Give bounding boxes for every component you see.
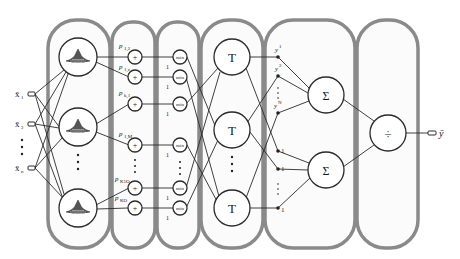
svg-text:+: + [133, 53, 138, 62]
svg-text:min: min [176, 102, 184, 107]
input-port [28, 166, 35, 170]
input-port [28, 92, 35, 96]
svg-text:÷: ÷ [384, 126, 391, 141]
sum-node-2: Σ [308, 152, 344, 188]
svg-text:T: T [228, 50, 236, 65]
svg-text:N: N [278, 100, 282, 105]
svg-text:min: min [176, 55, 184, 60]
svg-text:p: p [118, 89, 123, 97]
input-nodes: x̄ 1 x̄ 2 x̄ n [15, 89, 35, 174]
gaussian-nodes [59, 38, 97, 227]
svg-text:Σ: Σ [323, 89, 330, 103]
sum-node-1: Σ [308, 77, 344, 113]
input-port [28, 122, 35, 126]
t-node-1: T [214, 39, 250, 75]
gaussian-node-1 [59, 38, 97, 76]
svg-text:+: + [133, 204, 138, 213]
t-node-2: T [214, 112, 250, 148]
svg-text:1: 1 [166, 64, 169, 70]
fuzzy-neural-network-diagram: x̄ 1 x̄ 2 x̄ n [0, 0, 460, 259]
svg-text:+: + [133, 141, 138, 150]
output-port [428, 131, 436, 135]
svg-text:1: 1 [166, 111, 169, 117]
svg-text:T: T [228, 201, 236, 216]
gaussian-node-3 [59, 189, 97, 227]
svg-text:x̄: x̄ [15, 119, 20, 129]
input-x1: x̄ 1 [15, 89, 35, 100]
svg-text:min: min [176, 75, 184, 80]
svg-text:min: min [176, 186, 184, 191]
t-nodes: T T T [214, 39, 250, 226]
svg-text:1: 1 [21, 95, 24, 100]
svg-text:ȳ: ȳ [438, 128, 444, 139]
svg-text:+: + [133, 73, 138, 82]
svg-text:p: p [114, 194, 119, 202]
svg-text:Σ: Σ [323, 164, 330, 178]
svg-text:p: p [118, 63, 123, 71]
svg-text:1: 1 [281, 165, 285, 173]
svg-text:KO: KO [120, 198, 128, 203]
division-node: ÷ [370, 115, 406, 151]
input-ellipsis [21, 139, 23, 155]
output-node: ȳ [428, 128, 444, 139]
input-x2: x̄ 2 [15, 119, 35, 130]
svg-text:p: p [114, 175, 119, 183]
svg-text:2: 2 [21, 125, 24, 130]
svg-text:p: p [118, 130, 123, 138]
svg-text:x̄: x̄ [15, 89, 20, 99]
svg-text:1: 1 [281, 206, 285, 214]
input-xn: x̄ n [15, 163, 35, 174]
svg-text:+: + [133, 100, 138, 109]
gaussian-node-2 [59, 108, 97, 146]
svg-text:K1O: K1O [120, 179, 130, 184]
svg-text:1: 1 [281, 147, 285, 155]
t-node-3: T [214, 190, 250, 226]
svg-text:n: n [21, 169, 24, 174]
svg-text:min: min [176, 206, 184, 211]
svg-text:1: 1 [166, 84, 169, 90]
svg-text:x̄: x̄ [15, 163, 20, 173]
svg-text:p: p [118, 42, 123, 50]
svg-text:T: T [228, 123, 236, 138]
layer-5-sum [265, 20, 355, 248]
svg-text:min: min [176, 143, 184, 148]
svg-text:1: 1 [166, 215, 169, 221]
svg-text:1: 1 [166, 195, 169, 201]
svg-text:+: + [133, 184, 138, 193]
svg-text:1: 1 [166, 152, 169, 158]
